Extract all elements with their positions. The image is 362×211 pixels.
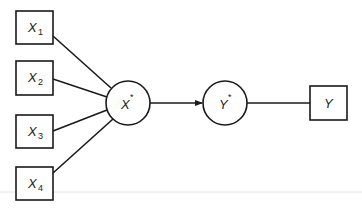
- ystar-superscript: *: [228, 92, 232, 102]
- node-x1: X 1: [16, 11, 53, 44]
- edge-x3-xstar: [53, 110, 107, 131]
- x1-subscript: 1: [38, 27, 43, 37]
- edge-x1-xstar: [53, 36, 111, 88]
- node-x4: X 4: [16, 167, 53, 200]
- path-diagram: X 1 X 2 X 3 X 4 X * Y * Y: [0, 0, 362, 211]
- y-label: Y: [324, 96, 334, 111]
- node-x2: X 2: [16, 61, 53, 95]
- node-ystar: Y *: [203, 81, 247, 125]
- node-xstar: X *: [106, 81, 150, 125]
- node-y: Y: [310, 86, 347, 120]
- x4-subscript: 4: [38, 183, 43, 193]
- x1-label: X: [27, 20, 38, 35]
- x3-label: X: [27, 124, 38, 139]
- node-x3: X 3: [16, 115, 53, 148]
- x4-label: X: [27, 176, 38, 191]
- edge-x2-xstar: [53, 79, 107, 97]
- x3-subscript: 3: [38, 131, 43, 141]
- x2-subscript: 2: [38, 77, 43, 87]
- x2-label: X: [27, 70, 38, 85]
- xstar-superscript: *: [130, 92, 134, 102]
